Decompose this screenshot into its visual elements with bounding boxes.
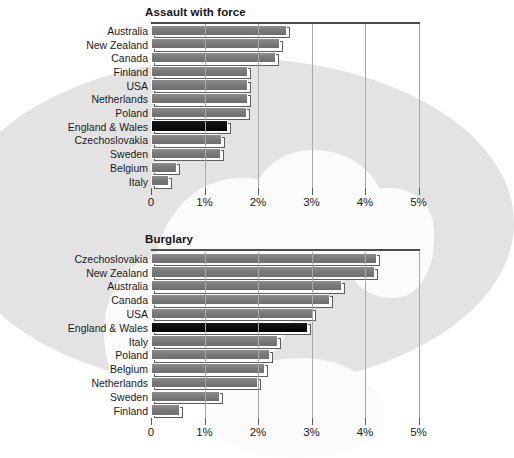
bar <box>151 134 222 145</box>
bar-row: Poland <box>151 349 420 363</box>
chart-title: Assault with force <box>145 6 246 18</box>
axis-tick-mark <box>365 188 366 195</box>
category-label: Australia <box>107 25 148 36</box>
bar-face <box>151 308 313 319</box>
axis-tick-mark <box>151 418 152 425</box>
category-label: USA <box>126 80 148 91</box>
bar <box>151 52 276 63</box>
bar <box>151 162 177 173</box>
category-label: Canada <box>111 53 148 64</box>
bar-row: Sweden <box>151 147 420 161</box>
gridline <box>312 24 313 188</box>
title-rule <box>151 249 420 251</box>
bar-row: England & Wales <box>151 120 420 134</box>
bar-row: New Zealand <box>151 266 420 280</box>
bar-face <box>151 363 265 374</box>
bar <box>151 148 221 159</box>
axis-tick-label: 1% <box>196 196 213 208</box>
axis-tick-label: 2% <box>250 426 267 438</box>
gridline <box>205 24 206 188</box>
gridline <box>419 24 420 188</box>
gridline <box>312 252 313 418</box>
gridline <box>365 24 366 188</box>
gridline <box>205 252 206 418</box>
bar-face <box>151 134 222 145</box>
bar <box>151 79 248 90</box>
bar <box>151 308 313 319</box>
category-label: Finland <box>114 66 148 77</box>
bar-row: Canada <box>151 51 420 65</box>
category-label: Sweden <box>110 391 148 402</box>
bar-face <box>151 120 228 131</box>
bar-row: USA <box>151 79 420 93</box>
bar-row: Australia <box>151 280 420 294</box>
axis-tick-mark <box>419 418 420 425</box>
category-label: Italy <box>129 176 148 187</box>
chart-title: Burglary <box>145 233 193 245</box>
gridline <box>258 24 259 188</box>
bar-row: Italy <box>151 175 420 189</box>
bar-row: Czechoslovakia <box>151 252 420 266</box>
category-label: Italy <box>129 336 148 347</box>
bar <box>151 93 248 104</box>
gridline <box>419 252 420 418</box>
bar-face <box>151 38 280 49</box>
axis-tick-mark <box>312 188 313 195</box>
category-label: Czechoslovakia <box>74 253 148 264</box>
axis-tick-label: 3% <box>303 196 320 208</box>
category-label: England & Wales <box>68 322 148 333</box>
category-label: Sweden <box>110 149 148 160</box>
bar <box>151 280 342 291</box>
bar <box>151 38 280 49</box>
bar-face <box>151 148 221 159</box>
bar <box>151 107 247 118</box>
category-label: England & Wales <box>68 121 148 131</box>
bar <box>151 349 270 360</box>
bar <box>151 253 377 264</box>
bar-row: Belgium <box>151 362 420 376</box>
bar-row: Belgium <box>151 161 420 175</box>
bar-face <box>151 107 247 118</box>
bar-face <box>151 25 287 36</box>
bar-face <box>151 404 180 415</box>
bar-row: Italy <box>151 335 420 349</box>
category-label: Canada <box>111 295 148 306</box>
gridline <box>258 252 259 418</box>
plot-area-burglary: 01%2%3%4%5%CzechoslovakiaNew ZealandAust… <box>151 252 420 418</box>
axis-tick-label: 1% <box>196 426 213 438</box>
bar-row: England & Wales <box>151 321 420 335</box>
category-label: New Zealand <box>86 39 148 50</box>
caption-fragment: ... <box>105 441 483 447</box>
plot-area-assault: 01%2%3%4%5%AustraliaNew ZealandCanadaFin… <box>151 24 420 188</box>
bar-row: Finland <box>151 65 420 79</box>
bar-row: Poland <box>151 106 420 120</box>
chart-assault-with-force: Assault with force 01%2%3%4%5%AustraliaN… <box>0 0 483 215</box>
category-label: Netherlands <box>91 94 148 105</box>
category-label: Poland <box>115 350 148 361</box>
axis-tick-label: 2% <box>250 196 267 208</box>
category-label: Belgium <box>110 162 148 173</box>
category-label: Finland <box>114 405 148 416</box>
gridline <box>365 252 366 418</box>
bar-row: Canada <box>151 293 420 307</box>
bar <box>151 322 308 333</box>
category-label: Poland <box>115 108 148 119</box>
bar-face <box>151 52 276 63</box>
bar-face <box>151 294 330 305</box>
bar-face <box>151 349 270 360</box>
axis-tick-mark <box>312 418 313 425</box>
axis-tick-label: 5% <box>410 426 427 438</box>
axis-tick-label: 4% <box>357 426 374 438</box>
bar-face <box>151 280 342 291</box>
bar-face <box>151 162 177 173</box>
bar-face <box>151 175 169 186</box>
bar-face <box>151 322 308 333</box>
bar <box>151 391 220 402</box>
axis-tick-mark <box>205 188 206 195</box>
bar-row: USA <box>151 307 420 321</box>
bar-face <box>151 253 377 264</box>
bar <box>151 25 287 36</box>
bar <box>151 266 375 277</box>
category-label: Belgium <box>110 364 148 375</box>
axis-tick-mark <box>205 418 206 425</box>
